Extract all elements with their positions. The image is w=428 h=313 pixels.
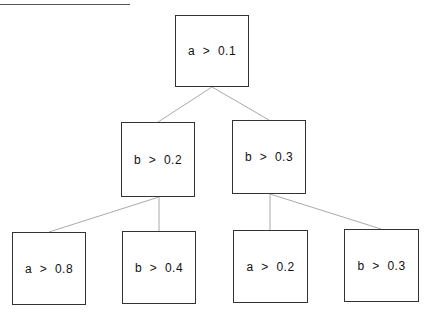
node-level2-2: b > 0.4 (122, 231, 196, 304)
node-label: b > 0.3 (245, 150, 293, 164)
node-label: a > 0.8 (25, 262, 73, 276)
node-level2-1: a > 0.8 (12, 232, 86, 305)
edge-r1-rr2 (270, 194, 381, 229)
node-level1-right: b > 0.3 (232, 120, 306, 194)
node-label: b > 0.2 (134, 153, 182, 167)
node-label: b > 0.4 (135, 261, 183, 275)
node-label: a > 0.2 (246, 260, 294, 274)
edge-root-r1 (212, 87, 269, 120)
node-label: b > 0.3 (357, 259, 405, 273)
node-level1-left: b > 0.2 (121, 122, 195, 197)
edge-root-l1 (158, 87, 212, 122)
node-root: a > 0.1 (175, 15, 249, 87)
edge-l1-ll2 (49, 197, 159, 232)
node-level2-3: a > 0.2 (233, 230, 308, 303)
node-level2-4: b > 0.3 (344, 229, 419, 302)
node-label: a > 0.1 (188, 44, 236, 58)
